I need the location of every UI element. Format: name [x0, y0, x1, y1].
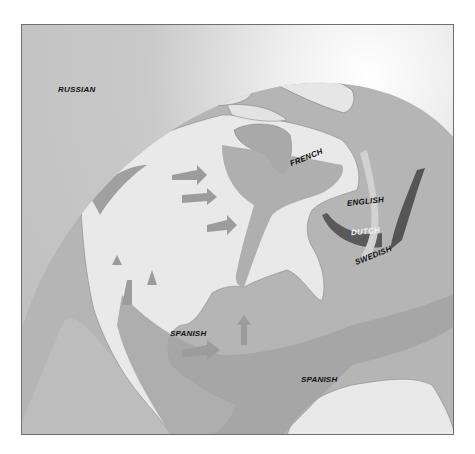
label-spanish-caribbean: SPANISH [301, 375, 337, 384]
label-russian: RUSSIAN [58, 85, 95, 94]
map-frame: RUSSIAN FRENCH ENGLISH DUTCH SWEDISH SPA… [21, 24, 454, 435]
label-spanish-north-america: SPANISH [170, 329, 206, 338]
